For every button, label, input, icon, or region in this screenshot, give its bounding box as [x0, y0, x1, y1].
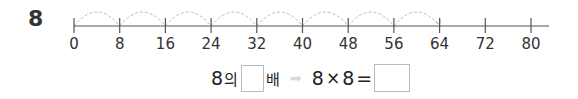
tick-label: 32	[247, 35, 266, 53]
answer-box-times[interactable]	[241, 65, 264, 92]
suffix-text: 배	[266, 68, 280, 89]
tick-label: 24	[202, 35, 221, 53]
tick-label: 8	[115, 35, 125, 53]
tick-label: 64	[430, 35, 449, 53]
tick-label: 16	[156, 35, 175, 53]
arrow-right-icon: ➡	[290, 70, 302, 86]
tick-label: 72	[476, 35, 495, 53]
tick-label: 56	[384, 35, 403, 53]
tick-label: 0	[69, 35, 79, 53]
tick-label: 40	[293, 35, 312, 53]
base-number: 8	[211, 67, 223, 89]
particle-text: 의	[224, 68, 238, 89]
equation-row: 8 의 배 ➡ 8 × 8 =	[211, 64, 410, 92]
number-line	[0, 0, 578, 40]
times-sign: ×	[326, 68, 340, 88]
tick-label: 48	[339, 35, 358, 53]
equals-sign: =	[356, 67, 372, 89]
multiplier: 8	[342, 67, 354, 89]
tick-label: 80	[521, 35, 540, 53]
answer-box-product[interactable]	[374, 64, 410, 92]
multiplicand: 8	[312, 67, 324, 89]
